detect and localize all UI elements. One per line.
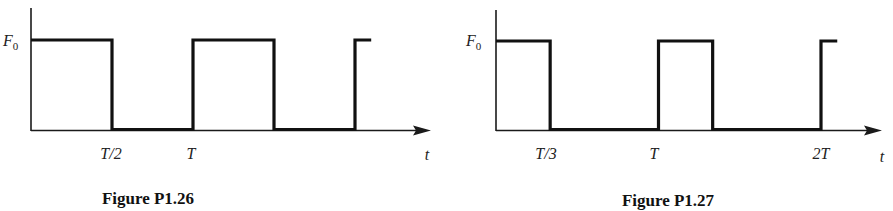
figure-caption: Figure P1.26: [102, 189, 194, 208]
figure-p1-26: F0 T/2 T t Figure P1.26: [2, 8, 431, 208]
tick-label-period: T: [650, 145, 660, 162]
figure-p1-27: F0 T/3 T 2T t Figure P1.27: [465, 10, 885, 210]
tick-label-period: T: [187, 145, 197, 162]
figures-canvas: F0 T/2 T t Figure P1.26 F0 T/3 T 2T t Fi…: [0, 0, 893, 211]
pulse-wave-line: [496, 41, 837, 130]
square-wave-line: [31, 40, 371, 130]
figure-caption: Figure P1.27: [622, 191, 715, 210]
time-axis-label: t: [880, 148, 885, 165]
amplitude-label: F0: [465, 32, 482, 52]
tick-label-third-period: T/3: [535, 145, 556, 162]
time-axis-label: t: [425, 146, 430, 163]
tick-label-half-period: T/2: [100, 145, 121, 162]
tick-label-two-periods: 2T: [813, 145, 831, 162]
amplitude-label: F0: [2, 32, 19, 52]
